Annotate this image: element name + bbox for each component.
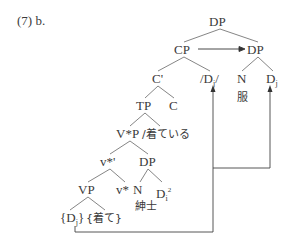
node-vstar-bar: v*' <box>100 155 115 169</box>
leaf-kite: {着て} <box>86 212 122 226</box>
node-dp-root: DP <box>209 15 226 29</box>
node-dp-lower: DP <box>139 155 156 169</box>
node-cp: CP <box>174 43 190 57</box>
node-d-right: Dj <box>266 72 278 91</box>
example-label: (7) b. <box>17 13 45 29</box>
node-tp: TP <box>136 99 151 113</box>
node-c-bar: C' <box>152 72 163 86</box>
leaf-dj: {Dj} <box>60 211 84 230</box>
node-d-lower: Di2 <box>156 183 171 206</box>
node-vp: VP <box>78 183 95 197</box>
word-kiteiru: /着ている <box>142 128 190 142</box>
node-n-right: N <box>237 72 246 86</box>
node-vstar: v* <box>116 183 129 197</box>
node-vstar-p: V*P <box>116 127 139 141</box>
node-dp-right: DP <box>247 43 264 57</box>
word-shinshi: 紳士 <box>135 200 157 214</box>
word-fuku: 服 <box>237 91 248 105</box>
node-c: C <box>169 99 178 113</box>
node-d-slash: /Dj/ <box>200 72 219 91</box>
node-n-lower: N <box>133 183 142 197</box>
